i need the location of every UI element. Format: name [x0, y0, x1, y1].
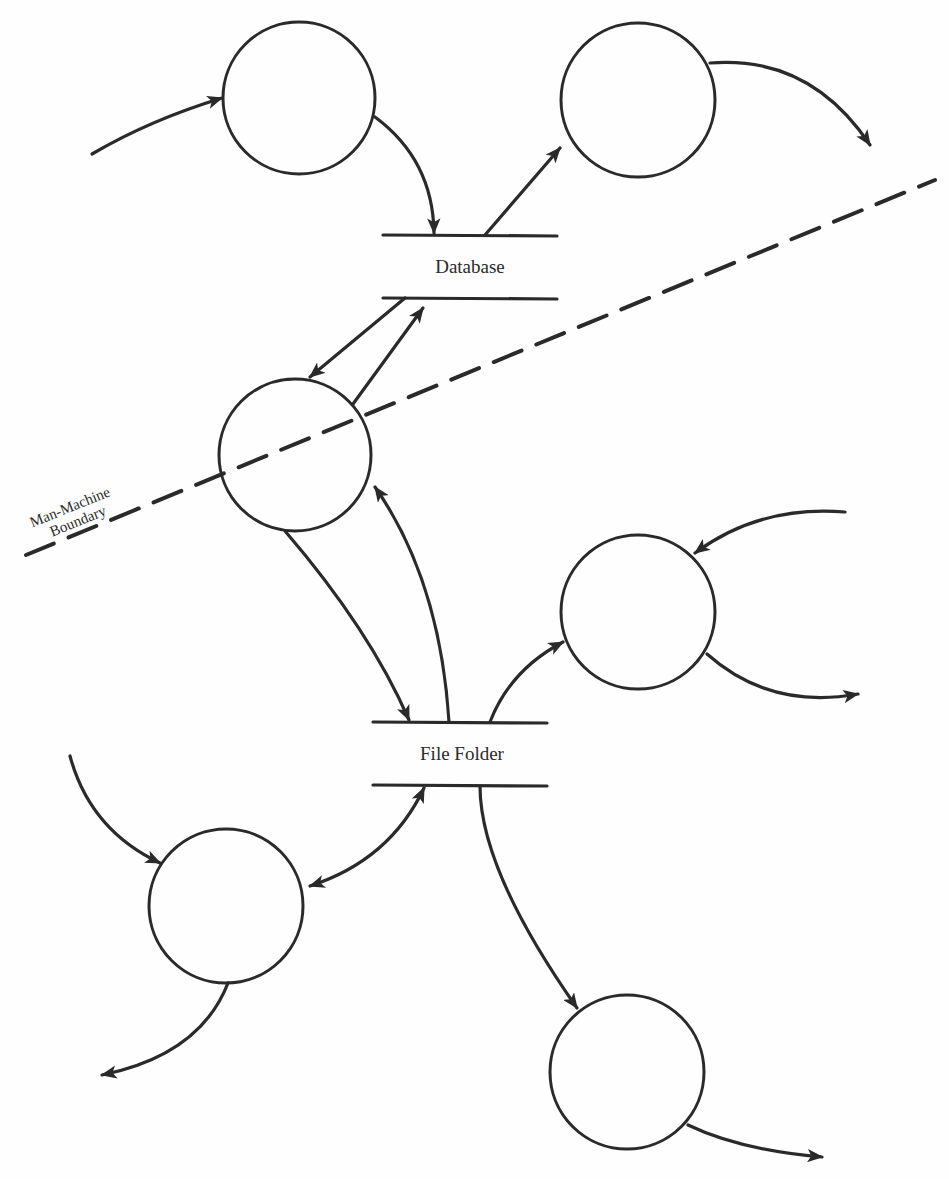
- flow-arrow-out-of-top-right: [710, 62, 870, 145]
- file-folder-label: File Folder: [420, 743, 505, 764]
- process-bubble-middle-right[interactable]: [561, 535, 715, 689]
- flow-arrow-file-folder-to-bottom-right: [480, 786, 577, 1008]
- file-folder-bottom-line: [373, 785, 547, 786]
- flow-arrow-top-left-to-database: [375, 117, 434, 233]
- flow-arrow-database-to-top-right: [485, 148, 560, 235]
- flow-arrow-middle-left-to-file-folder: [285, 531, 409, 720]
- process-bubble-bottom-left[interactable]: [149, 829, 303, 983]
- diagram-canvas: Man-Machine Boundary Database File Folde…: [0, 0, 949, 1179]
- flow-arrow-middle-left-to-database: [353, 308, 423, 404]
- flow-arrow-out-of-middle-right: [707, 654, 858, 698]
- flow-arrow-into-top-left: [92, 98, 222, 154]
- database-label: Database: [435, 256, 505, 277]
- flow-arrow-out-of-bottom-left: [102, 983, 228, 1075]
- flow-arrow-file-folder-to-middle-left: [375, 487, 449, 722]
- process-bubble-bottom-right[interactable]: [550, 995, 704, 1149]
- flow-arrow-database-to-middle-left: [310, 298, 405, 377]
- flow-arrow-file-folder-to-middle-right: [490, 642, 563, 722]
- data-store-database[interactable]: Database: [383, 235, 557, 299]
- database-bottom-line: [383, 298, 557, 299]
- flow-arrow-into-bottom-left: [70, 756, 160, 863]
- data-flow-diagram: Man-Machine Boundary Database File Folde…: [0, 0, 949, 1179]
- database-top-line: [383, 235, 557, 236]
- flow-arrow-out-of-bottom-right: [688, 1125, 822, 1157]
- data-store-file-folder[interactable]: File Folder: [373, 722, 547, 786]
- process-bubble-top-right[interactable]: [561, 23, 715, 177]
- process-bubble-top-left[interactable]: [223, 22, 375, 174]
- flow-arrow-bottom-left-file-folder-bidirectional: [310, 788, 424, 886]
- file-folder-top-line: [373, 722, 547, 723]
- flow-arrow-into-middle-right: [695, 511, 845, 553]
- process-bubble-middle-left[interactable]: [219, 379, 371, 531]
